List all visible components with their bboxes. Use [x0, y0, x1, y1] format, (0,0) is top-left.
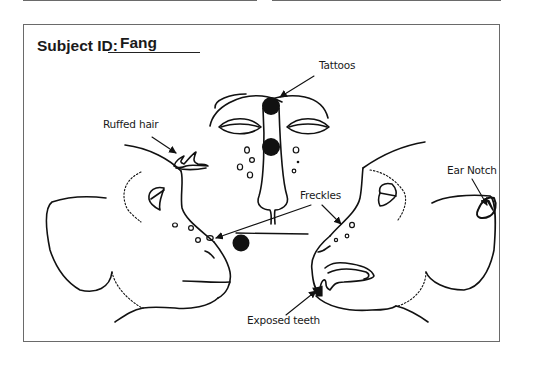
exposed-teeth-label: Exposed teeth [247, 314, 320, 326]
ruffed-hair-label: Ruffed hair [103, 118, 158, 130]
freckles-label: Freckles [300, 189, 341, 201]
left-profile-figure [47, 145, 309, 322]
primate-face-diagram [0, 0, 539, 366]
tattoos-label: Tattoos [319, 59, 355, 71]
ear-notch-label: Ear Notch [447, 164, 497, 176]
